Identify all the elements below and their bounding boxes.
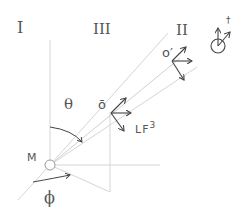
dagger-label: † <box>226 16 231 25</box>
diagram: I III II θ ϕ M ō o′ LF3 † <box>0 0 244 224</box>
origin-label: M <box>27 152 37 163</box>
theta-label: θ <box>64 97 73 112</box>
ray-lower <box>50 67 197 165</box>
lf-text: LF <box>135 123 149 136</box>
vector-cluster-oprime <box>172 47 192 80</box>
lf-label: LF3 <box>135 121 156 135</box>
lf-superscript: 3 <box>149 120 156 130</box>
region-label-I: I <box>17 20 23 36</box>
region-label-III: III <box>93 22 111 37</box>
vector-cluster-obar <box>111 98 131 131</box>
symbol-icon <box>211 28 230 53</box>
phi-arc <box>33 175 70 182</box>
region-label-II: II <box>176 23 188 38</box>
o-bar-label: ō <box>98 98 106 111</box>
diagram-graphics <box>0 0 244 224</box>
o-prime-label: o′ <box>162 46 173 59</box>
phi-label: ϕ <box>44 190 55 206</box>
origin-circle <box>45 160 55 170</box>
